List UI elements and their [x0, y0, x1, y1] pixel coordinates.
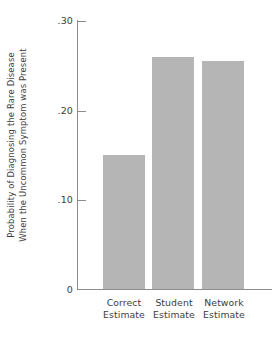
bar-student-estimate	[152, 57, 194, 289]
bar-correct-estimate	[103, 155, 145, 289]
x-label-network-estimate-line-1: Network	[195, 297, 253, 309]
bar-chart-figure: Probability of Diagnosing the Rare Disea…	[0, 0, 277, 342]
plot-area	[0, 0, 277, 290]
x-label-network-estimate-line-2: Estimate	[195, 309, 253, 321]
bar-network-estimate	[202, 61, 244, 289]
x-label-network-estimate: Network Estimate	[195, 297, 253, 320]
